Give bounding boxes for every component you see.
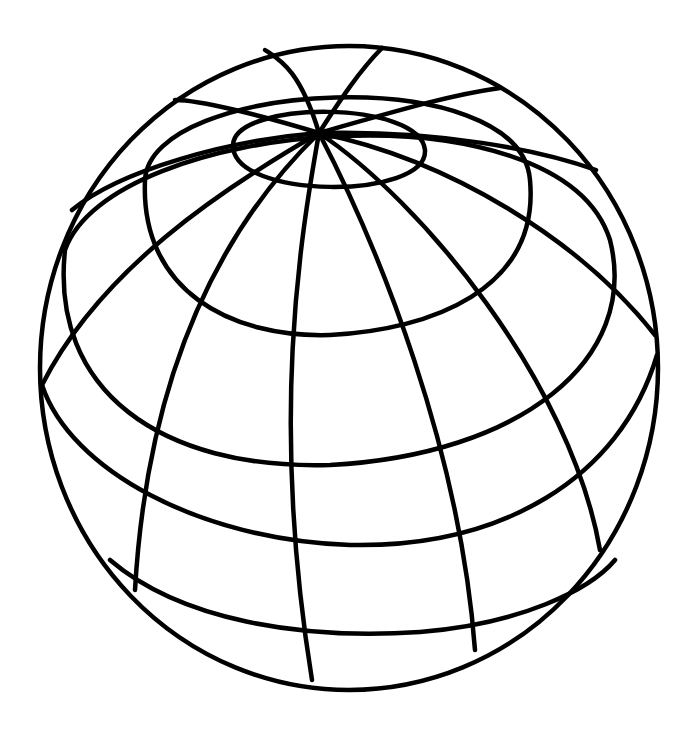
meridian-line-6 [319,133,600,550]
wireframe-globe-illustration [0,0,699,731]
latitude-rings [42,97,657,633]
meridian-line-2 [319,48,382,133]
meridian-lines [42,48,655,680]
meridian-line-8 [291,133,319,680]
meridian-line-7 [319,133,475,650]
